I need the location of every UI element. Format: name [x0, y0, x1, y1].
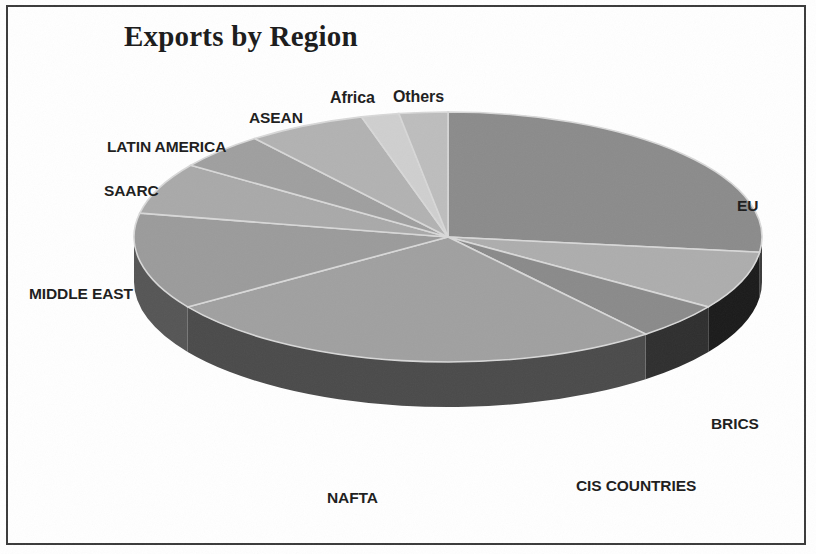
- pie-label-africa: Africa: [330, 89, 375, 107]
- pie-graphic: [0, 0, 816, 554]
- chart-screenshot: Exports by Region EU BRICS CIS COUNTRIES…: [0, 0, 816, 554]
- pie-label-brics: BRICS: [711, 415, 759, 433]
- pie-chart: Exports by Region EU BRICS CIS COUNTRIES…: [0, 0, 816, 554]
- pie-label-others: Others: [393, 88, 444, 106]
- pie-slice-eu: [448, 112, 762, 252]
- pie-label-nafta: NAFTA: [327, 489, 378, 507]
- pie-label-eu: EU: [737, 197, 758, 215]
- pie-top-faces: [134, 112, 762, 362]
- pie-label-latin-america: LATIN AMERICA: [107, 138, 226, 156]
- pie-label-saarc: SAARC: [104, 182, 159, 200]
- pie-label-asean: ASEAN: [249, 109, 303, 127]
- pie-label-middle-east: MIDDLE EAST: [29, 285, 133, 303]
- pie-label-cis-countries: CIS COUNTRIES: [576, 477, 696, 495]
